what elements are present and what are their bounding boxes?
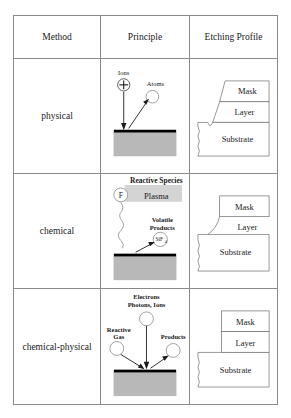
reactive-gas-circle-icon xyxy=(110,342,124,356)
incoming-particle-arrowhead-icon xyxy=(144,362,150,370)
principle-cell-chemical-physical: Electrons Photons, Ions Reactive Gas xyxy=(101,289,190,405)
products-label: Products xyxy=(161,333,186,340)
table-header-row: Method Principle Etching Profile xyxy=(14,16,278,59)
anisotropic-profile-diagram: Mask Layer Substrate xyxy=(190,59,277,173)
fluorine-symbol-label: F xyxy=(119,191,123,200)
mask-label: Mask xyxy=(235,202,255,212)
atom-circle-icon xyxy=(146,90,159,103)
reactive-gas-arrow xyxy=(121,354,142,367)
column-header-etching-profile: Etching Profile xyxy=(190,16,278,59)
principle-cell-physical: Ions Atoms xyxy=(101,59,190,174)
substrate-block xyxy=(114,256,176,280)
substrate-label: Substrate xyxy=(220,247,252,257)
layer-label: Layer xyxy=(234,107,254,117)
substrate-block xyxy=(114,132,176,156)
ion-arrowhead-icon xyxy=(121,123,126,130)
profile-cell-physical: Mask Layer Substrate xyxy=(190,59,278,174)
substrate-label: Substrate xyxy=(220,365,252,375)
layer-label: Layer xyxy=(235,338,255,348)
mask-label: Mask xyxy=(236,317,256,327)
table-row: physical Ions Atoms xyxy=(14,59,278,174)
etching-methods-table: Method Principle Etching Profile physica… xyxy=(13,15,278,405)
principle-cell-chemical: Reactive Species Plasma F Volatile Produ… xyxy=(101,174,190,289)
layer-label: Layer xyxy=(237,222,257,232)
profile-cell-chemical-physical: Mask Layer Substrate xyxy=(190,289,278,405)
chemical-physical-principle-diagram: Electrons Photons, Ions Reactive Gas xyxy=(101,289,189,404)
method-label-chemical-physical: chemical-physical xyxy=(14,289,101,405)
method-label-physical: physical xyxy=(14,59,101,174)
table-row: chemical Reactive Species Plasma F xyxy=(14,174,278,289)
substrate-surface-line xyxy=(114,130,176,133)
radical-transport-path xyxy=(118,202,123,248)
reactive-species-label: Reactive Species xyxy=(130,176,183,185)
column-header-principle: Principle xyxy=(101,16,190,59)
substrate-surface-line xyxy=(114,370,176,373)
mask-label: Mask xyxy=(238,86,258,96)
photons-ions-label: Photons, Ions xyxy=(128,301,166,308)
substrate-surface-line xyxy=(114,254,176,257)
isotropic-profile-diagram: Mask Layer Substrate xyxy=(190,174,277,288)
reactive-gas-label-line2: Gas xyxy=(113,333,124,340)
incoming-particle-circle-icon xyxy=(140,312,154,326)
table-row: chemical-physical Electrons Photons, Ion… xyxy=(14,289,278,405)
atoms-label: Atoms xyxy=(147,80,165,87)
ions-label: Ions xyxy=(118,69,130,76)
profile-cell-chemical: Mask Layer Substrate xyxy=(190,174,278,289)
physical-principle-diagram: Ions Atoms xyxy=(101,59,189,173)
substrate-block xyxy=(114,372,176,396)
chemical-principle-diagram: Reactive Species Plasma F Volatile Produ… xyxy=(101,174,189,288)
undercut-curve xyxy=(208,217,220,235)
sif4-symbol-label: SiF xyxy=(156,236,164,242)
products-circle-icon xyxy=(166,344,180,358)
etching-comparison-figure: Method Principle Etching Profile physica… xyxy=(0,0,291,418)
volatile-products-label-line2: Products xyxy=(150,224,175,231)
column-header-method: Method xyxy=(14,16,101,59)
reactive-gas-arrowhead-icon xyxy=(138,364,145,370)
method-label-chemical: chemical xyxy=(14,174,101,289)
vertical-profile-diagram: Mask Layer Substrate xyxy=(190,289,277,404)
volatile-products-label-line1: Volatile xyxy=(152,216,173,223)
plasma-label: Plasma xyxy=(144,191,169,201)
ejected-atom-arrow xyxy=(129,102,147,129)
electrons-label: Electrons xyxy=(133,293,160,300)
substrate-label: Substrate xyxy=(222,134,254,144)
